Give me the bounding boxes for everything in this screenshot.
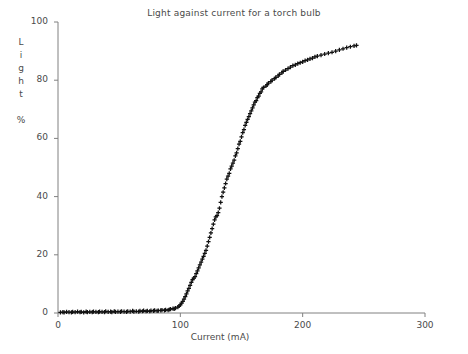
data-point-marker (219, 200, 223, 204)
data-point-marker (206, 240, 210, 244)
data-point-marker (222, 186, 226, 190)
data-point-marker (210, 227, 214, 231)
data-point-marker (220, 195, 224, 199)
data-point-marker (211, 222, 215, 226)
data-point-marker (354, 43, 358, 47)
data-point-marker (217, 206, 221, 210)
data-point-marker (209, 231, 213, 235)
data-point-marker (326, 51, 330, 55)
axes (54, 22, 425, 317)
data-point-marker (239, 135, 243, 139)
data-point-marker (236, 146, 240, 150)
data-point-marker (345, 46, 349, 50)
data-point-marker (205, 244, 209, 248)
data-point-marker (348, 45, 352, 49)
data-point-marker (223, 181, 227, 185)
data-point-marker (221, 190, 225, 194)
data-point-marker (319, 53, 323, 57)
data-point-marker (337, 48, 341, 52)
data-point-marker (323, 52, 327, 56)
data-points (58, 43, 358, 314)
data-point-marker (334, 49, 338, 53)
chart-root: Light against current for a torch bulb L… (0, 0, 468, 354)
data-point-marker (330, 50, 334, 54)
data-point-marker (341, 47, 345, 51)
plot-area (0, 0, 468, 354)
data-point-marker (208, 235, 212, 239)
